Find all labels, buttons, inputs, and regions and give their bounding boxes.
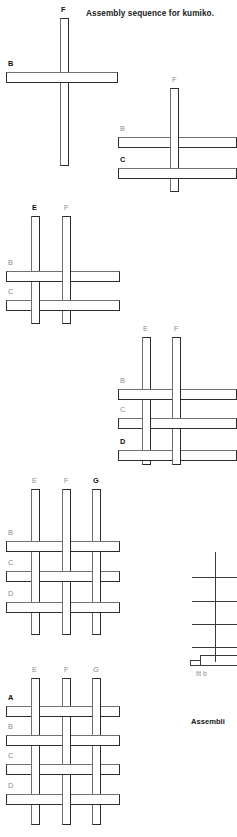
weave-over-segment-f bbox=[62, 601, 71, 614]
slat-label-c: C bbox=[120, 156, 125, 164]
slat-label-f: F bbox=[64, 477, 69, 485]
slat-label-a: A bbox=[8, 694, 13, 702]
slat-label-d: D bbox=[120, 438, 125, 446]
detail-crossbar-2 bbox=[192, 601, 237, 602]
slat-label-b: B bbox=[120, 125, 125, 133]
slat-label-e: E bbox=[32, 666, 37, 674]
weave-over-segment-f bbox=[62, 734, 71, 747]
slat-label-b: B bbox=[8, 529, 13, 537]
weave-over-segment-f bbox=[62, 540, 71, 553]
slat-label-f: F bbox=[174, 325, 179, 333]
slat-label-e: E bbox=[143, 325, 148, 333]
slat-label-c: C bbox=[8, 288, 13, 296]
slat-label-e: E bbox=[32, 477, 37, 485]
weave-over-segment-f bbox=[172, 449, 181, 462]
weave-over-segment-f bbox=[172, 388, 181, 401]
detail-step-base-top bbox=[200, 655, 237, 656]
detail-crossbar-3 bbox=[192, 624, 237, 625]
horizontal-slat-b bbox=[6, 72, 118, 83]
vertical-slat-g bbox=[92, 489, 101, 635]
weave-over-segment-e bbox=[31, 299, 40, 312]
slat-label-c: C bbox=[8, 752, 13, 760]
detail-step-riser bbox=[200, 655, 201, 665]
slat-label-f: F bbox=[64, 204, 69, 212]
weave-over-segment-e bbox=[142, 417, 151, 430]
weave-over-segment-e bbox=[31, 705, 40, 718]
detail-step-base-bottom bbox=[190, 665, 237, 666]
slat-label-c: C bbox=[8, 559, 13, 567]
horizontal-slat-a bbox=[6, 706, 120, 717]
horizontal-slat-c bbox=[6, 571, 120, 582]
slat-label-b: B bbox=[120, 377, 125, 385]
weave-over-segment-f bbox=[62, 793, 71, 806]
slat-label-d: D bbox=[8, 590, 13, 598]
weave-over-segment-g bbox=[92, 705, 101, 718]
bottom-caption: Assembli bbox=[191, 717, 225, 726]
weave-over-segment-g bbox=[92, 763, 101, 776]
slat-label-g: G bbox=[93, 477, 99, 485]
detail-step-lip-top bbox=[190, 660, 200, 661]
slat-label-g: G bbox=[93, 666, 99, 674]
horizontal-slat-c bbox=[118, 418, 237, 429]
vertical-slat-f bbox=[60, 18, 69, 166]
weave-over-segment-g bbox=[92, 570, 101, 583]
slat-label-f: F bbox=[172, 76, 177, 84]
detail-crossbar-1 bbox=[192, 577, 237, 578]
slat-label-e: E bbox=[32, 204, 37, 212]
horizontal-slat-c bbox=[118, 168, 237, 179]
detail-crossbar-4 bbox=[192, 647, 237, 648]
slat-label-d: D bbox=[8, 782, 13, 790]
vertical-slat-e bbox=[142, 337, 151, 465]
horizontal-slat-c bbox=[6, 764, 120, 775]
fit-note: fit b bbox=[196, 670, 207, 677]
vertical-slat-e bbox=[31, 489, 40, 635]
slat-label-f: F bbox=[64, 666, 69, 674]
vertical-slat-f bbox=[172, 337, 181, 465]
weave-over-segment-e bbox=[31, 570, 40, 583]
kumiko-assembly-figure: Assembly sequence for kumiko. FBFBCEFBCE… bbox=[0, 0, 237, 837]
slat-label-b: B bbox=[8, 60, 13, 68]
weave-over-segment-f bbox=[170, 136, 179, 149]
weave-over-segment-f bbox=[62, 270, 71, 283]
slat-label-b: B bbox=[8, 259, 13, 267]
slat-label-f: F bbox=[61, 6, 66, 14]
slat-label-c: C bbox=[120, 406, 125, 414]
weave-over-segment-e bbox=[31, 763, 40, 776]
slat-label-b: B bbox=[8, 723, 13, 731]
detail-vertical-line bbox=[215, 552, 216, 662]
horizontal-slat-c bbox=[6, 300, 120, 311]
